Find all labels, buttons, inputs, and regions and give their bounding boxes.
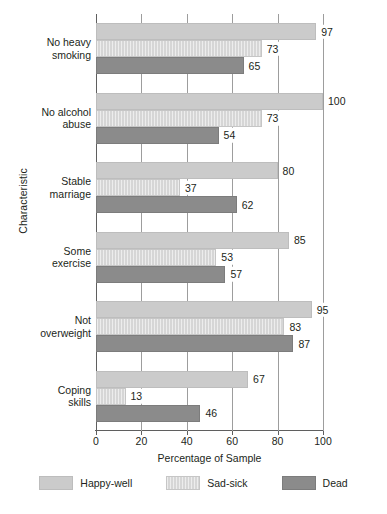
bar-value-label: 67 bbox=[250, 372, 268, 387]
legend-label: Happy-well bbox=[80, 477, 132, 489]
category-label: Someexercise bbox=[5, 245, 91, 270]
bar-sad[interactable] bbox=[96, 179, 180, 196]
bar-dead[interactable] bbox=[96, 335, 293, 352]
bar-value-label: 87 bbox=[295, 337, 313, 352]
category-label-line: No heavy bbox=[5, 36, 91, 49]
bar-group: 977365 bbox=[96, 14, 323, 84]
category-label-line: marriage bbox=[5, 188, 91, 201]
category-label-column: No heavysmokingNo alcoholabuseStablemarr… bbox=[0, 14, 91, 431]
bar-row: 73 bbox=[96, 40, 323, 57]
legend-item[interactable]: Dead bbox=[282, 476, 348, 490]
category-label: Copingskills bbox=[5, 384, 91, 409]
legend-swatch-icon bbox=[282, 476, 316, 490]
bar-group: 803762 bbox=[96, 153, 323, 223]
legend-swatch-icon bbox=[166, 476, 200, 490]
bar-value-label: 85 bbox=[291, 233, 309, 248]
bar-value-label: 54 bbox=[221, 128, 239, 143]
bar-group: 855357 bbox=[96, 223, 323, 293]
category-label: Notoverweight bbox=[5, 314, 91, 339]
x-tick-label: 80 bbox=[272, 435, 284, 447]
bar-happy[interactable] bbox=[96, 93, 323, 110]
bar-sad[interactable] bbox=[96, 40, 262, 57]
category-label: No heavysmoking bbox=[5, 36, 91, 61]
x-tick-label: 0 bbox=[93, 435, 99, 447]
bar-value-label: 80 bbox=[280, 164, 298, 179]
bar-row: 13 bbox=[96, 388, 323, 405]
horizontal-bar-chart: Characteristic No heavysmokingNo alcohol… bbox=[0, 0, 387, 514]
category-label-line: Not bbox=[5, 314, 91, 327]
x-tick-label: 20 bbox=[136, 435, 148, 447]
chart-legend: Happy-wellSad-sickDead bbox=[0, 476, 387, 490]
bar-group: 671346 bbox=[96, 362, 323, 432]
bar-row: 100 bbox=[96, 93, 323, 110]
category-label: No alcoholabuse bbox=[5, 106, 91, 131]
category-label-line: skills bbox=[5, 396, 91, 409]
bar-row: 73 bbox=[96, 110, 323, 127]
legend-label: Dead bbox=[323, 477, 348, 489]
bar-value-label: 53 bbox=[218, 250, 236, 265]
bar-value-label: 95 bbox=[314, 303, 332, 318]
category-label-line: Stable bbox=[5, 175, 91, 188]
bar-happy[interactable] bbox=[96, 23, 316, 40]
bar-sad[interactable] bbox=[96, 110, 262, 127]
bar-happy[interactable] bbox=[96, 232, 289, 249]
category-label: Stablemarriage bbox=[5, 175, 91, 200]
legend-swatch-icon bbox=[39, 476, 73, 490]
category-label-line: Some bbox=[5, 245, 91, 258]
bar-value-label: 65 bbox=[246, 59, 264, 74]
x-tick-label: 60 bbox=[226, 435, 238, 447]
bar-dead[interactable] bbox=[96, 196, 237, 213]
bar-dead[interactable] bbox=[96, 57, 244, 74]
bar-value-label: 13 bbox=[128, 389, 146, 404]
bar-group: 958387 bbox=[96, 292, 323, 362]
bar-value-label: 73 bbox=[264, 42, 282, 57]
category-label-line: Coping bbox=[5, 384, 91, 397]
bar-happy[interactable] bbox=[96, 301, 312, 318]
bar-value-label: 46 bbox=[202, 406, 220, 421]
bar-sad[interactable] bbox=[96, 388, 126, 405]
bar-row: 54 bbox=[96, 127, 323, 144]
bar-row: 80 bbox=[96, 162, 323, 179]
bar-dead[interactable] bbox=[96, 405, 200, 422]
category-label-line: overweight bbox=[5, 327, 91, 340]
bar-value-label: 83 bbox=[286, 320, 304, 335]
bar-happy[interactable] bbox=[96, 371, 248, 388]
bar-value-label: 97 bbox=[318, 25, 336, 40]
bar-row: 65 bbox=[96, 57, 323, 74]
legend-item[interactable]: Happy-well bbox=[39, 476, 132, 490]
category-label-line: abuse bbox=[5, 118, 91, 131]
bar-dead[interactable] bbox=[96, 127, 219, 144]
bar-row: 97 bbox=[96, 23, 323, 40]
category-label-line: No alcohol bbox=[5, 106, 91, 119]
bar-sad[interactable] bbox=[96, 318, 284, 335]
x-axis-title: Percentage of Sample bbox=[96, 452, 323, 464]
bar-row: 57 bbox=[96, 266, 323, 283]
category-label-line: smoking bbox=[5, 49, 91, 62]
legend-item[interactable]: Sad-sick bbox=[166, 476, 247, 490]
x-tick-label: 40 bbox=[181, 435, 193, 447]
category-label-line: exercise bbox=[5, 257, 91, 270]
bar-row: 85 bbox=[96, 232, 323, 249]
bar-value-label: 57 bbox=[227, 267, 245, 282]
bar-happy[interactable] bbox=[96, 162, 278, 179]
bar-row: 67 bbox=[96, 371, 323, 388]
bar-row: 62 bbox=[96, 196, 323, 213]
x-tick-label: 100 bbox=[314, 435, 332, 447]
bar-sad[interactable] bbox=[96, 249, 216, 266]
bar-row: 53 bbox=[96, 249, 323, 266]
bar-group: 1007354 bbox=[96, 84, 323, 154]
bar-row: 87 bbox=[96, 335, 323, 352]
legend-label: Sad-sick bbox=[207, 477, 247, 489]
bar-row: 83 bbox=[96, 318, 323, 335]
bar-value-label: 37 bbox=[182, 181, 200, 196]
bar-row: 46 bbox=[96, 405, 323, 422]
bar-dead[interactable] bbox=[96, 266, 225, 283]
bar-value-label: 100 bbox=[325, 94, 349, 109]
bar-row: 37 bbox=[96, 179, 323, 196]
bar-row: 95 bbox=[96, 301, 323, 318]
gridline-100 bbox=[323, 14, 324, 431]
plot-area: 9773651007354803762855357958387671346 bbox=[96, 14, 323, 431]
bar-value-label: 73 bbox=[264, 111, 282, 126]
bar-value-label: 62 bbox=[239, 198, 257, 213]
